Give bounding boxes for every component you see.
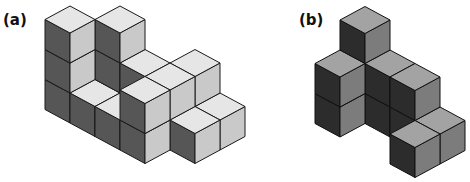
figure-b-cube-stack	[0, 0, 470, 182]
